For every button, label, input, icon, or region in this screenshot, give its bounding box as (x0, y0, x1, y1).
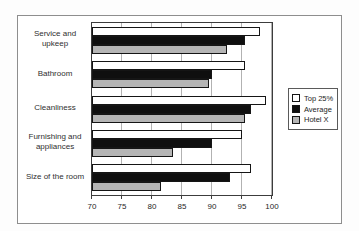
bar (92, 61, 245, 70)
gridline (271, 23, 272, 195)
category-label: Service and upkeep (23, 22, 87, 56)
category-label: Furnishing and appliances (23, 125, 87, 159)
legend-item: Top 25% (292, 93, 334, 104)
x-tick-mark (241, 196, 242, 199)
category-label: Bathroom (23, 56, 87, 90)
category-label: Size of the room (23, 160, 87, 194)
bar (92, 139, 212, 148)
legend-label: Average (304, 105, 332, 114)
x-tick-mark (271, 196, 272, 199)
legend-label: Hotel X (304, 115, 329, 124)
legend-swatch-icon (292, 116, 300, 124)
x-tick-mark (121, 196, 122, 199)
legend-label: Top 25% (304, 94, 333, 103)
legend-swatch-icon (292, 94, 300, 102)
category-label: Cleanliness (23, 91, 87, 125)
x-tick-mark (91, 196, 92, 199)
x-tick-label: 95 (238, 202, 247, 211)
bar (92, 45, 227, 54)
x-tick-label: 70 (88, 202, 97, 211)
x-tick-mark (151, 196, 152, 199)
bar (92, 130, 242, 139)
bar (92, 105, 251, 114)
x-tick-mark (211, 196, 212, 199)
x-tick-label: 100 (265, 202, 278, 211)
bar (92, 173, 230, 182)
plot-area (91, 22, 273, 196)
x-tick-mark (181, 196, 182, 199)
x-tick-label: 80 (148, 202, 157, 211)
bar (92, 114, 245, 123)
legend-swatch-icon (292, 105, 300, 113)
x-tick-label: 85 (178, 202, 187, 211)
x-tick-label: 90 (208, 202, 217, 211)
legend-item: Hotel X (292, 114, 334, 125)
bar (92, 36, 245, 45)
bar (92, 96, 266, 105)
bar (92, 79, 209, 88)
legend-item: Average (292, 104, 334, 115)
bar (92, 70, 212, 79)
bar (92, 182, 161, 191)
chart-figure: Service and upkeepBathroomCleanlinessFur… (17, 15, 342, 224)
legend: Top 25%AverageHotel X (288, 88, 338, 130)
bar (92, 148, 173, 157)
bar (92, 164, 251, 173)
bar (92, 27, 260, 36)
x-tick-label: 75 (118, 202, 127, 211)
